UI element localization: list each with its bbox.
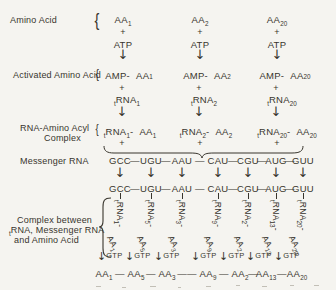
rna-base: RNA — [259, 126, 280, 137]
chain-aa: AA2 — [232, 268, 249, 281]
rna-base: RNA — [177, 202, 187, 221]
amp-base: AMP- — [105, 70, 130, 81]
trna-sub-n: 20 — [296, 221, 303, 228]
down-arrow-icon: ↓ — [271, 105, 282, 118]
aa-sub: 1 — [109, 274, 113, 281]
gtp-step: ↓GTP — [97, 251, 123, 262]
aa-base: AA — [136, 70, 149, 81]
label-activated-amino-acid: Activated Amino Acid — [13, 70, 101, 80]
plus-sign: + — [197, 138, 202, 148]
aa-base: AA — [192, 14, 205, 25]
gtp-label: GTP — [283, 251, 299, 260]
brace-acyl-row: { — [95, 123, 98, 135]
protein-synthesis-diagram: Amino Acid Activated Amino Acid RNA-Amin… — [0, 0, 336, 290]
down-arrow-icon: ↓ — [272, 48, 283, 61]
rna-base: RNA — [115, 202, 125, 221]
aa-base: AA — [215, 126, 228, 137]
bond-dash: - — [130, 126, 133, 137]
rna-base: RNA — [243, 202, 253, 221]
scan-artifact — [290, 285, 294, 286]
amp-base: AMP- — [183, 70, 208, 81]
aa-base: AA — [159, 268, 172, 279]
rna-base: RNA — [213, 202, 223, 221]
aa-sub: 3 — [172, 274, 176, 281]
trna-vertical-label: tRNA20- — [296, 200, 308, 231]
down-arrow-icon: ↓ — [97, 251, 106, 262]
bond-line — [276, 193, 277, 199]
aa-sub: 2 — [229, 132, 233, 139]
aa-base: AA — [232, 268, 245, 279]
codon-sep: — — [161, 155, 171, 166]
chain-sep: — — [277, 268, 287, 279]
aa-sub: 1 — [128, 20, 132, 27]
rna-base: RNA — [146, 202, 156, 221]
down-arrow-icon: ↓ — [243, 166, 254, 179]
chain-aa: AA20 — [287, 268, 307, 281]
trna-aa-complex-1: tRNA1-AA1 — [104, 126, 157, 139]
aa-base: AA — [200, 268, 213, 279]
trna-sub-n: 2 — [214, 100, 218, 107]
plus-sign: + — [119, 83, 124, 93]
bond-dash: - — [287, 126, 290, 137]
plus-sign: + — [120, 27, 125, 37]
down-arrow-icon: ↓ — [146, 166, 157, 179]
trna-sub-n: 13 — [269, 221, 276, 228]
label-complex-line3: and Amino Acid — [14, 235, 79, 245]
gtp-label: GTP — [200, 251, 216, 260]
aa-sub: 9 — [213, 274, 217, 281]
down-arrow-icon: ↓ — [271, 166, 282, 179]
aa-base: AA — [296, 126, 309, 137]
aa-base: AA — [290, 70, 303, 81]
aa-base: AA — [256, 268, 269, 279]
trna-vertical-label: tRNA1- — [113, 200, 125, 227]
bond-dash: - — [146, 224, 156, 227]
gtp-step: ↓GTP — [219, 251, 245, 262]
down-arrow-icon: ↓ — [125, 251, 134, 262]
aa-sub: 20 — [280, 20, 287, 27]
trna-aa-complex-20: tRNA20-AA20 — [257, 126, 317, 139]
bond-line — [248, 193, 249, 199]
chain-aa: AA9 — [200, 268, 217, 281]
bond-line — [218, 193, 219, 199]
amp-aa-2: AMP-AA2 — [183, 70, 231, 81]
bond-dash: - — [115, 224, 125, 227]
chain-sep: — — [146, 268, 156, 279]
plus-sign: + — [197, 27, 202, 37]
codon-sep: — — [130, 183, 140, 194]
trna-sub-n: 20 — [290, 100, 297, 107]
bond-dash: - — [213, 224, 223, 227]
brace-activated-row: { — [95, 67, 98, 80]
rna-base: RNA — [298, 202, 308, 221]
scan-artifact — [206, 286, 211, 287]
gtp-step: ↓GTP — [191, 251, 217, 262]
aa-sub: 20 — [300, 274, 307, 281]
rna-base: RNA — [271, 202, 281, 221]
plus-sign: + — [274, 138, 279, 148]
gtp-step: ↓GTP — [154, 251, 180, 262]
amp-aa-1: AMP-AA1 — [105, 70, 153, 81]
plus-sign: + — [196, 83, 201, 93]
down-arrow-icon: ↓ — [274, 251, 283, 262]
aa-base: AA — [115, 14, 128, 25]
gtp-label: GTP — [106, 251, 122, 260]
down-arrow-icon: ↓ — [117, 105, 128, 118]
aa-base: AA — [128, 268, 141, 279]
chain-aa: AA3 — [159, 268, 176, 281]
amp-aa-20: AMP-AA20 — [259, 70, 310, 81]
codon-sep: — — [161, 183, 171, 194]
codon-sep: — — [195, 155, 205, 166]
chain-aa: AA5 — [128, 268, 145, 281]
scan-artifact — [122, 287, 126, 288]
aa-sub: 20 — [310, 132, 317, 139]
chain-sep: — — [115, 268, 125, 279]
down-arrow-icon: ↓ — [118, 48, 129, 61]
down-arrow-icon: ↓ — [213, 166, 224, 179]
down-arrow-icon: ↓ — [177, 166, 188, 179]
down-arrow-icon: ↓ — [191, 251, 200, 262]
scan-artifact — [150, 286, 156, 287]
down-arrow-icon: ↓ — [298, 166, 309, 179]
scan-artifact — [262, 286, 267, 287]
scan-artifact — [236, 285, 240, 286]
down-arrow-icon: ↓ — [194, 105, 205, 118]
bond-dash: - — [243, 224, 253, 227]
